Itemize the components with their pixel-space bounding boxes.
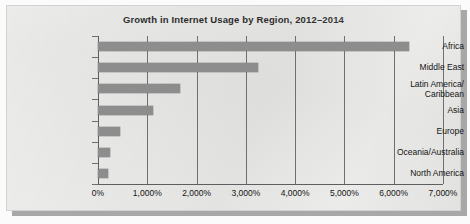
y-axis-tick [92, 142, 98, 143]
x-axis-line [98, 184, 443, 185]
bar [98, 127, 120, 136]
category-label-line: Oceania/Australia [378, 147, 464, 158]
gridline [197, 36, 198, 184]
bar [98, 84, 180, 93]
category-label: Middle East [378, 62, 470, 73]
x-axis-tick-label: 1,000% [133, 188, 162, 198]
y-axis-tick [92, 163, 98, 164]
category-label-line: Africa [378, 41, 464, 52]
x-axis-tick-label: 4,000% [281, 188, 310, 198]
category-label-line: Europe [378, 126, 464, 137]
chart-title: Growth in Internet Usage by Region, 2012… [7, 14, 460, 25]
x-axis-tick-label: 0% [92, 188, 104, 198]
category-label-line: North America [378, 168, 464, 179]
x-axis-tick-label: 3,000% [231, 188, 260, 198]
category-label: Latin America/Caribbean [378, 79, 470, 99]
x-axis-tick-label: 6,000% [379, 188, 408, 198]
bar [98, 63, 258, 72]
category-label: Africa [378, 41, 470, 52]
category-label-line: Middle East [378, 62, 464, 73]
y-axis-tick [92, 36, 98, 37]
x-axis-tick-label: 2,000% [182, 188, 211, 198]
bar [98, 42, 409, 51]
bar [98, 169, 108, 178]
category-label: Asia [378, 105, 470, 116]
gridline [295, 36, 296, 184]
category-label-line: Caribbean [378, 89, 464, 99]
y-axis-tick [92, 57, 98, 58]
gridline [344, 36, 345, 184]
x-axis-tick-label: 7,000% [429, 188, 458, 198]
category-label: North America [378, 168, 470, 179]
y-axis-tick [92, 78, 98, 79]
y-axis-tick [92, 99, 98, 100]
y-axis-tick [92, 121, 98, 122]
category-label: Oceania/Australia [378, 147, 470, 158]
x-axis-tick-label: 5,000% [330, 188, 359, 198]
category-label-line: Asia [378, 105, 464, 116]
y-axis-tick [92, 184, 98, 185]
bar [98, 106, 153, 115]
gridline [246, 36, 247, 184]
chart-page: Growth in Internet Usage by Region, 2012… [0, 0, 470, 224]
category-label: Europe [378, 126, 470, 137]
category-label-line: Latin America/ [378, 79, 464, 89]
bar [98, 148, 110, 157]
